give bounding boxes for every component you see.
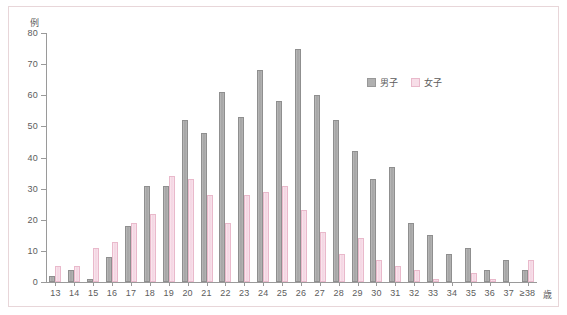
- y-tick-mark: [41, 158, 46, 159]
- y-tick-label: 50: [18, 121, 38, 131]
- chart-figure: 例 歳 01020304050607080 131415161718192021…: [0, 0, 567, 315]
- bar-group: [125, 33, 137, 282]
- bar-female: [414, 270, 420, 282]
- bar-female: [188, 179, 194, 282]
- x-tick-mark: [301, 282, 302, 286]
- y-tick-label: 60: [18, 90, 38, 100]
- y-tick-mark: [41, 33, 46, 34]
- bar-male: [389, 167, 395, 282]
- bar-group: [522, 33, 534, 282]
- bar-group: [465, 33, 477, 282]
- bar-female: [376, 260, 382, 282]
- x-tick-mark: [433, 282, 434, 286]
- x-tick-mark: [131, 282, 132, 286]
- bar-group: [389, 33, 401, 282]
- bar-female: [395, 266, 401, 282]
- x-tick-mark: [55, 282, 56, 286]
- x-tick-mark: [225, 282, 226, 286]
- y-tick-mark: [41, 189, 46, 190]
- x-tick-mark: [93, 282, 94, 286]
- bar-group: [219, 33, 231, 282]
- bar-group: [314, 33, 326, 282]
- legend-entry: 男子: [367, 76, 398, 89]
- bar-group: [182, 33, 194, 282]
- x-tick-mark: [528, 282, 529, 286]
- bar-group: [503, 33, 515, 282]
- bar-group: [68, 33, 80, 282]
- bar-male: [446, 254, 452, 282]
- x-tick-mark: [150, 282, 151, 286]
- y-tick-label: 20: [18, 215, 38, 225]
- legend-entry: 女子: [411, 76, 442, 89]
- bar-female: [358, 238, 364, 282]
- bar-group: [370, 33, 382, 282]
- bar-group: [49, 33, 61, 282]
- y-tick-label: 70: [18, 59, 38, 69]
- x-axis-unit-label: 歳: [543, 288, 552, 301]
- bar-group: [163, 33, 175, 282]
- bar-female: [263, 192, 269, 282]
- bar-group: [276, 33, 288, 282]
- bar-female: [207, 195, 213, 282]
- bar-group: [238, 33, 250, 282]
- bar-group: [106, 33, 118, 282]
- x-tick-mark: [414, 282, 415, 286]
- bar-group: [257, 33, 269, 282]
- x-tick-mark: [320, 282, 321, 286]
- x-tick-mark: [263, 282, 264, 286]
- x-tick-mark: [452, 282, 453, 286]
- bar-female: [169, 176, 175, 282]
- x-tick-mark: [471, 282, 472, 286]
- x-tick-mark: [74, 282, 75, 286]
- x-tick-mark: [490, 282, 491, 286]
- y-tick-label: 30: [18, 184, 38, 194]
- bar-female: [301, 210, 307, 282]
- y-tick-label: 80: [18, 28, 38, 38]
- y-tick-mark: [41, 220, 46, 221]
- y-tick-mark: [41, 251, 46, 252]
- legend-swatch-male: [367, 78, 376, 87]
- bar-group: [408, 33, 420, 282]
- bar-female: [150, 214, 156, 282]
- x-tick-mark: [376, 282, 377, 286]
- bar-female: [320, 232, 326, 282]
- x-tick-mark: [339, 282, 340, 286]
- bar-group: [201, 33, 213, 282]
- y-tick-mark: [41, 64, 46, 65]
- y-tick-mark: [41, 126, 46, 127]
- y-tick-mark: [41, 282, 46, 283]
- bar-female: [244, 195, 250, 282]
- bar-male: [427, 235, 433, 282]
- bar-female: [225, 223, 231, 282]
- y-axis-line: [46, 33, 47, 282]
- bar-group: [333, 33, 345, 282]
- bar-female: [433, 279, 439, 282]
- legend-swatch-female: [411, 78, 420, 87]
- bar-female: [528, 260, 534, 282]
- bar-male: [503, 260, 509, 282]
- x-tick-mark: [282, 282, 283, 286]
- bar-female: [471, 273, 477, 282]
- x-tick-mark: [244, 282, 245, 286]
- bar-female: [93, 248, 99, 282]
- x-tick-label: ≥38: [514, 288, 541, 298]
- bar-group: [87, 33, 99, 282]
- y-tick-mark: [41, 95, 46, 96]
- bar-female: [490, 279, 496, 282]
- bar-female: [112, 242, 118, 282]
- x-tick-mark: [358, 282, 359, 286]
- x-axis-line: [46, 282, 537, 283]
- bar-female: [131, 223, 137, 282]
- bar-female: [282, 186, 288, 282]
- x-tick-mark: [188, 282, 189, 286]
- bar-group: [144, 33, 156, 282]
- x-tick-mark: [207, 282, 208, 286]
- x-tick-mark: [112, 282, 113, 286]
- y-tick-label: 0: [18, 277, 38, 287]
- bar-group: [446, 33, 458, 282]
- bar-group: [352, 33, 364, 282]
- x-tick-mark: [509, 282, 510, 286]
- bar-group: [295, 33, 307, 282]
- y-tick-label: 40: [18, 153, 38, 163]
- bar-female: [74, 266, 80, 282]
